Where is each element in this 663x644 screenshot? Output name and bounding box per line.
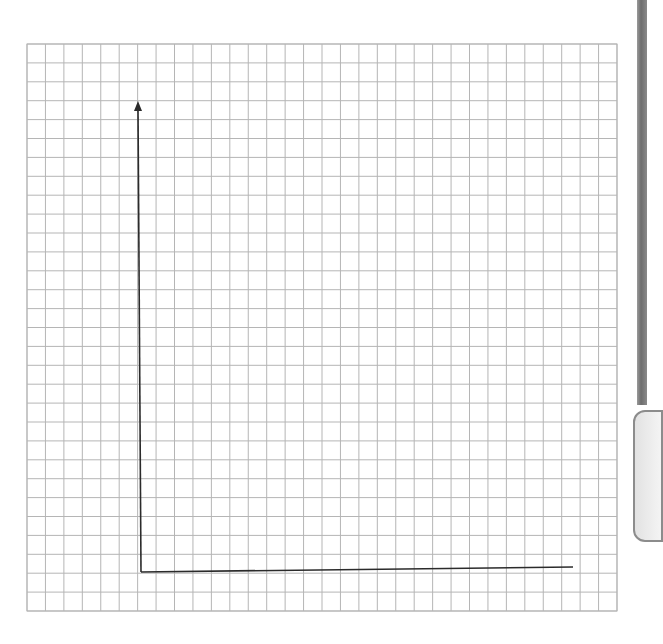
- photo-edge-object: [637, 0, 647, 405]
- y-axis: [138, 109, 141, 572]
- y-axis-arrowhead-icon: [134, 101, 142, 111]
- x-axis: [141, 567, 573, 572]
- grid-lines: [27, 44, 617, 611]
- axes: [134, 101, 573, 572]
- photo-edge-rounded-object: [633, 410, 663, 542]
